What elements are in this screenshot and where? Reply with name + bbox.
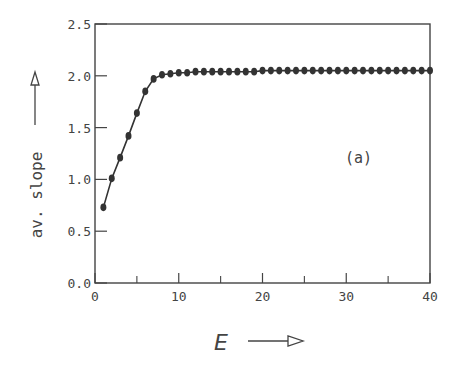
data-point [142, 88, 148, 96]
data-point [419, 67, 425, 75]
data-point [352, 67, 358, 75]
x-tick-label: 0 [91, 289, 99, 304]
data-point [109, 175, 115, 183]
plot-frame [95, 24, 430, 283]
data-point [218, 68, 224, 76]
data-point [368, 67, 374, 75]
data-point [268, 67, 274, 75]
data-point [410, 67, 416, 75]
data-point [184, 69, 190, 77]
data-series [100, 67, 433, 211]
x-tick-label: 30 [338, 289, 354, 304]
data-point [126, 132, 132, 140]
chart: 0102030400.00.51.01.52.02.5 (a) av. slop… [0, 0, 459, 369]
data-point [285, 67, 291, 75]
data-point [310, 67, 316, 75]
data-point [167, 70, 173, 78]
axis-ticks [95, 24, 430, 283]
data-point [234, 68, 240, 76]
data-point [117, 154, 123, 162]
x-tick-label: 40 [422, 289, 438, 304]
data-point [377, 67, 383, 75]
data-point [159, 71, 165, 79]
y-tick-label: 0.0 [68, 276, 91, 291]
y-tick-label: 0.5 [68, 224, 91, 239]
data-point [335, 67, 341, 75]
data-point [134, 109, 140, 117]
data-point [293, 67, 299, 75]
x-tick-label: 20 [255, 289, 271, 304]
x-axis-title: E [214, 330, 228, 355]
y-tick-label: 1.0 [68, 172, 91, 187]
data-point [226, 68, 232, 76]
y-tick-label: 2.5 [68, 17, 91, 32]
x-axis-arrow-icon [248, 336, 303, 346]
data-point [260, 67, 266, 75]
series-line [103, 71, 430, 208]
data-point [318, 67, 324, 75]
panel-label: (a) [345, 149, 372, 167]
data-point [243, 68, 249, 76]
y-tick-label: 1.5 [68, 121, 91, 136]
data-point [276, 67, 282, 75]
data-point [209, 68, 215, 76]
data-point [394, 67, 400, 75]
x-tick-label: 10 [171, 289, 187, 304]
tick-labels: 0102030400.00.51.01.52.02.5 [68, 17, 438, 304]
data-point [427, 67, 433, 75]
data-point [360, 67, 366, 75]
data-point [201, 68, 207, 76]
data-point [343, 67, 349, 75]
data-point [402, 67, 408, 75]
data-point [151, 75, 157, 83]
data-point [251, 68, 257, 76]
data-point [385, 67, 391, 75]
data-point [193, 68, 199, 76]
y-axis-title: av. slope [27, 152, 46, 239]
data-point [327, 67, 333, 75]
data-point [100, 204, 106, 212]
y-tick-label: 2.0 [68, 69, 91, 84]
y-axis-arrow-icon [31, 72, 39, 125]
data-point [301, 67, 307, 75]
data-point [176, 69, 182, 77]
